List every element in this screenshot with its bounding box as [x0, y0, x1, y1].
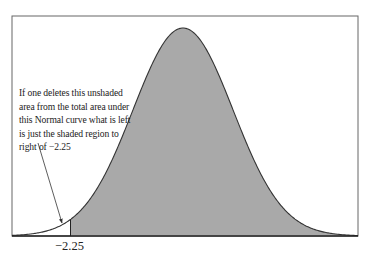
annotation-line-3: this Normal curve what is left: [19, 113, 131, 127]
annotation-line-5: right of −2.25: [19, 140, 131, 154]
annotation-line-2: area from the total area under: [19, 100, 131, 114]
annotation-text: If one deletes this unshaded area from t…: [19, 86, 131, 154]
annotation-line-4: is just the shaded region to: [19, 127, 131, 141]
annotation-line-1: If one deletes this unshaded: [19, 86, 131, 100]
cutoff-tick-label: −2.25: [55, 239, 84, 254]
